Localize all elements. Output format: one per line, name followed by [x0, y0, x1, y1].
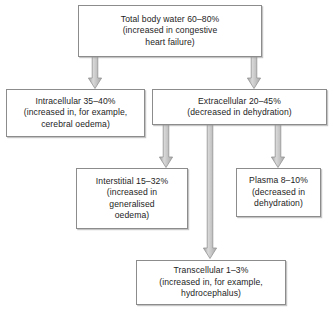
node-total-body-water-line-2: (increased in congestive — [123, 25, 218, 36]
arrow-total-to-extracellular — [244, 56, 264, 90]
node-total-body-water: Total body water 60–80% (increased in co… — [78, 5, 262, 57]
arrow-extracellular-to-transcellular — [200, 124, 220, 260]
node-interstitial-line-1: Interstitial 15–32% — [96, 176, 168, 187]
arrow-extracellular-to-interstitial — [156, 124, 176, 169]
node-plasma-line-3: dehydration) — [254, 198, 303, 209]
node-interstitial-line-2: (increased in — [107, 187, 157, 198]
node-interstitial-line-4: oedema) — [115, 210, 150, 221]
node-intracellular-line-3: cerebral oedema) — [41, 119, 110, 130]
node-transcellular-line-2: (increased in, for example, — [159, 277, 263, 288]
node-interstitial-line-3: generalised — [109, 199, 154, 210]
node-transcellular-line-3: hydrocephalus) — [181, 288, 241, 299]
node-total-body-water-line-1: Total body water 60–80% — [121, 14, 219, 25]
node-extracellular: Extracellular 20–45% (decreased in dehyd… — [152, 89, 327, 125]
node-total-body-water-line-3: heart failure) — [145, 37, 194, 48]
arrow-total-to-intracellular — [85, 56, 105, 90]
node-plasma-line-2: (decreased in — [252, 187, 305, 198]
node-intracellular-line-2: (increased in, for example, — [24, 107, 128, 118]
node-intracellular-line-1: Intracellular 35–40% — [35, 96, 115, 107]
node-plasma-line-1: Plasma 8–10% — [249, 175, 308, 186]
node-transcellular: Transcellular 1–3% (increased in, for ex… — [136, 260, 286, 305]
arrow-extracellular-to-plasma — [268, 124, 288, 169]
node-intracellular: Intracellular 35–40% (increased in, for … — [6, 89, 145, 137]
flow-chart: Total body water 60–80% (increased in co… — [0, 0, 333, 316]
node-extracellular-line-1: Extracellular 20–45% — [198, 96, 281, 107]
node-extracellular-line-2: (decreased in dehydration) — [187, 107, 291, 118]
node-plasma: Plasma 8–10% (decreased in dehydration) — [236, 168, 321, 217]
node-transcellular-line-1: Transcellular 1–3% — [174, 265, 249, 276]
node-interstitial: Interstitial 15–32% (increased in genera… — [76, 168, 188, 229]
